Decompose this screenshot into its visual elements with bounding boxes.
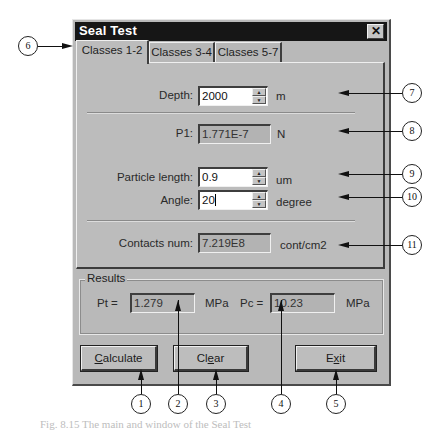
callout-line xyxy=(141,380,142,394)
button-label: it xyxy=(339,352,345,364)
depth-value: 2000 xyxy=(202,90,228,102)
arrow-icon xyxy=(338,242,349,248)
callout-line xyxy=(216,380,217,394)
window-title: Seal Test xyxy=(79,23,137,38)
spin-down-icon[interactable]: ▼ xyxy=(252,177,266,185)
callout-6: 6 xyxy=(18,36,38,56)
callout-line xyxy=(349,245,402,246)
results-group xyxy=(79,279,384,335)
close-button[interactable]: ✕ xyxy=(367,24,384,39)
angle-value: 20 xyxy=(202,194,215,206)
callout-line xyxy=(336,380,337,394)
separator xyxy=(87,112,355,114)
pt-output: 1.279 xyxy=(130,293,195,313)
button-label: Cl xyxy=(197,352,208,364)
callout-line xyxy=(349,197,402,198)
arrow-icon xyxy=(213,369,219,380)
contacts-num-unit: cont/cm2 xyxy=(280,239,327,251)
callout-2: 2 xyxy=(168,394,188,414)
callout-3: 3 xyxy=(206,394,226,414)
callout-11: 11 xyxy=(402,235,422,255)
callout-8: 8 xyxy=(402,121,422,141)
callout-line xyxy=(38,46,62,47)
callout-7: 7 xyxy=(402,83,422,103)
clear-button[interactable]: Clear xyxy=(174,346,248,371)
arrow-icon xyxy=(62,43,73,49)
particle-length-label: Particle length: xyxy=(87,171,193,183)
angle-spinner[interactable]: ▲▼ xyxy=(252,192,266,208)
particle-length-spinner[interactable]: ▲▼ xyxy=(252,169,266,185)
pt-value: 1.279 xyxy=(134,297,163,309)
callout-9: 9 xyxy=(402,164,422,184)
arrow-icon xyxy=(278,300,284,311)
contacts-num-label: Contacts num: xyxy=(87,237,193,249)
p1-unit: N xyxy=(277,128,285,140)
angle-label: Angle: xyxy=(87,194,193,206)
callout-1: 1 xyxy=(131,394,151,414)
pc-label: Pc = xyxy=(240,297,263,309)
callout-10: 10 xyxy=(402,187,422,207)
spin-up-icon[interactable]: ▲ xyxy=(252,169,266,177)
separator xyxy=(87,220,355,222)
arrow-icon xyxy=(338,90,349,96)
results-group-label: Results xyxy=(85,272,127,284)
spin-up-icon[interactable]: ▲ xyxy=(252,192,266,200)
mnemonic: C xyxy=(95,352,103,364)
depth-spinner[interactable]: ▲▼ xyxy=(252,88,266,104)
title-bar[interactable]: Seal Test ✕ xyxy=(75,22,387,41)
p1-output: 1.771E-7 xyxy=(198,124,271,144)
button-label: ar xyxy=(214,352,224,364)
callout-line xyxy=(281,300,282,394)
tab-classes-5-7[interactable]: Classes 5-7 xyxy=(215,42,282,62)
tab-classes-3-4[interactable]: Classes 3-4 xyxy=(149,42,215,62)
close-icon: ✕ xyxy=(371,24,381,38)
figure-caption: Fig. 8.15 The main and window of the Sea… xyxy=(40,418,251,430)
contacts-num-value: 7.219E8 xyxy=(202,237,245,249)
spin-up-icon[interactable]: ▲ xyxy=(252,88,266,96)
pc-unit: MPa xyxy=(346,297,370,309)
button-label: E xyxy=(326,352,334,364)
calculate-button[interactable]: Calculate xyxy=(81,346,157,371)
contacts-num-output: 7.219E8 xyxy=(198,233,271,253)
pt-unit: MPa xyxy=(205,297,229,309)
callout-5: 5 xyxy=(326,394,346,414)
tab-classes-1-2[interactable]: Classes 1-2 xyxy=(76,40,149,64)
text-cursor xyxy=(215,194,216,206)
arrow-icon xyxy=(138,369,144,380)
particle-length-value: 0.9 xyxy=(202,171,218,183)
spin-down-icon[interactable]: ▼ xyxy=(252,96,266,104)
arrow-icon xyxy=(338,194,349,200)
arrow-icon xyxy=(338,128,349,134)
button-label: alculate xyxy=(103,352,143,364)
depth-label: Depth: xyxy=(87,89,193,101)
arrow-icon xyxy=(175,300,181,311)
particle-length-unit: um xyxy=(276,174,292,186)
callout-line xyxy=(349,174,402,175)
spin-down-icon[interactable]: ▼ xyxy=(252,200,266,208)
depth-unit: m xyxy=(276,90,286,102)
seal-test-window: Seal Test ✕ Classes 1-2 Classes 3-4 Clas… xyxy=(72,19,391,386)
pt-label: Pt = xyxy=(97,297,118,309)
callout-line xyxy=(349,131,402,132)
callout-line xyxy=(178,300,179,394)
p1-value: 1.771E-7 xyxy=(202,128,249,140)
arrow-icon xyxy=(338,171,349,177)
callout-4: 4 xyxy=(271,394,291,414)
p1-label: P1: xyxy=(87,127,193,139)
arrow-icon xyxy=(333,369,339,380)
callout-line xyxy=(349,93,402,94)
exit-button[interactable]: Exit xyxy=(296,346,376,371)
angle-unit: degree xyxy=(276,196,312,208)
